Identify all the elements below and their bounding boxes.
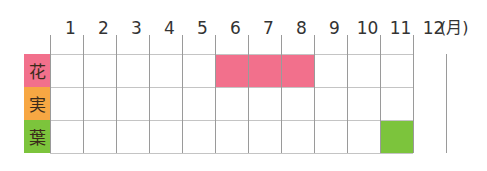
grid-vline [50,35,51,153]
active-cell [380,120,413,153]
grid-vline [446,54,447,153]
active-cell [281,54,314,87]
grid-hline [50,120,413,121]
row-label: 葉 [24,120,50,153]
grid-vline [413,35,414,153]
row-label: 花 [24,54,50,87]
grid-vline [347,35,348,153]
active-cell [215,54,248,87]
grid-vline [215,35,216,153]
grid-vline [380,35,381,153]
grid-vline [248,35,249,153]
grid-hline [50,54,413,55]
active-cell [248,54,281,87]
grid-vline [182,35,183,153]
grid-vline [116,35,117,153]
row-label: 実 [24,87,50,120]
grid-vline [314,35,315,153]
grid-vline [281,35,282,153]
grid-hline [50,87,413,88]
grid-hline [50,153,413,154]
grid-vline [83,35,84,153]
unit-label: (月) [440,18,468,38]
grid-vline [149,35,150,153]
